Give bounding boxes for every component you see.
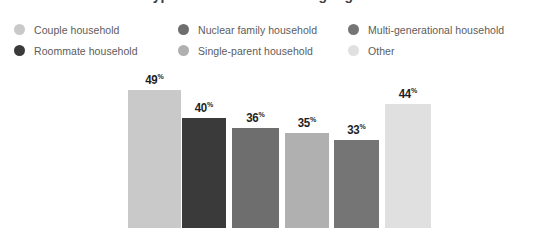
bar-chart-figure: Types of households living together Coup… [0,0,533,235]
percent-sign: % [158,72,164,81]
bar-value-number: 33 [347,122,359,137]
percent-sign: % [310,115,316,124]
bar [385,104,431,228]
bar [285,133,329,228]
bar-value-label: 36% [235,110,276,125]
bar-value-label: 44% [388,86,428,101]
chart-plot-area: 49%40%36%35%33%44% [0,0,533,235]
bar [334,140,379,228]
bar-value-label: 35% [288,115,327,130]
bar-value-label: 49% [131,72,178,87]
bar [128,90,181,228]
bar [232,128,279,228]
bar-value-number: 36 [246,110,258,125]
bar-value-number: 44 [399,86,411,101]
bar-value-label: 33% [337,122,377,137]
bar [182,118,226,228]
bar-value-label: 40% [185,100,224,115]
bar-value-number: 40 [195,100,207,115]
bar-value-number: 49 [145,72,157,87]
percent-sign: % [411,86,417,95]
bar-value-number: 35 [298,115,310,130]
percent-sign: % [259,110,265,119]
percent-sign: % [360,122,366,131]
percent-sign: % [207,100,213,109]
